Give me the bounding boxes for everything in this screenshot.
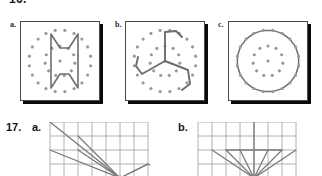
- outer-ring-dot: [236, 55, 239, 58]
- outer-ring-dot: [252, 87, 255, 90]
- grid-panel-17a: [48, 122, 150, 176]
- outer-ring-dot: [297, 64, 300, 67]
- outer-ring-dot: [159, 29, 162, 32]
- outer-ring-dot: [294, 45, 297, 48]
- inner-ring-dot: [172, 47, 175, 50]
- panel-a-drawing: [21, 22, 99, 100]
- panel-c-drawing: [229, 22, 307, 100]
- outer-ring-dot: [86, 73, 89, 76]
- outer-ring-dot: [177, 87, 180, 90]
- outer-ring-dot: [294, 73, 297, 76]
- center-dot-a: [58, 59, 61, 62]
- center-dot-c: [266, 59, 269, 62]
- inner-ring-dot: [155, 47, 158, 50]
- outer-ring-dot: [149, 87, 152, 90]
- outer-ring-dot: [89, 55, 92, 58]
- outer-ring-dot: [297, 55, 300, 58]
- inner-ring-dot: [168, 74, 171, 77]
- outer-ring-dot: [149, 32, 152, 35]
- outer-ring-dot: [288, 37, 291, 40]
- page-header-cut-off: 16.: [9, 0, 27, 5]
- outer-ring-dot: [288, 81, 291, 84]
- outer-ring-dot: [236, 64, 239, 67]
- outer-ring-dot: [31, 73, 34, 76]
- inner-ring-dot: [175, 69, 178, 72]
- inner-ring-dot: [178, 62, 181, 65]
- ray-segments-17b: [212, 122, 296, 176]
- inner-ring-dot: [72, 53, 75, 56]
- outer-ring-dot: [280, 87, 283, 90]
- exercise-17-number: 17.: [6, 121, 21, 133]
- inner-ring-dot: [54, 74, 57, 77]
- ray-segment: [240, 150, 254, 176]
- outer-ring-dot: [159, 90, 162, 93]
- outer-ring-dot: [168, 90, 171, 93]
- inner-ring-dot: [150, 53, 153, 56]
- outer-ring-dot: [28, 64, 31, 67]
- outer-ring-dot: [136, 45, 139, 48]
- inner-ring-dot: [253, 53, 256, 56]
- panel-c-label: c.: [218, 20, 224, 29]
- panel-b-label: b.: [115, 20, 121, 29]
- outer-ring-dot: [28, 55, 31, 58]
- inner-ring-dot: [271, 74, 274, 77]
- outer-ring-dot: [244, 81, 247, 84]
- outer-ring-dot: [63, 29, 66, 32]
- inner-ring-dot: [152, 69, 155, 72]
- outer-ring-dot: [141, 81, 144, 84]
- outer-ring-dot: [244, 37, 247, 40]
- pinwheel-arm: [165, 31, 182, 61]
- outer-ring-dot: [194, 64, 197, 67]
- outer-ring-dot: [54, 90, 57, 93]
- outer-ring-dot: [80, 81, 83, 84]
- outer-ring-dot: [239, 45, 242, 48]
- inner-ring-dot: [44, 62, 47, 65]
- outer-ring-dot: [185, 37, 188, 40]
- outer-ring-dot: [280, 32, 283, 35]
- exercise-17: 17. a. b.: [0, 118, 322, 176]
- inner-ring-dot: [262, 74, 265, 77]
- hourglass-figure-a: [51, 34, 78, 88]
- outer-ring-dot: [239, 73, 242, 76]
- outer-ring-dot: [191, 45, 194, 48]
- ray-segments-17a: [50, 122, 120, 176]
- outer-ring-dot: [72, 87, 75, 90]
- textbook-page-fragment: 16. a. b.: [0, 0, 322, 176]
- inner-ring-dot: [258, 47, 261, 50]
- quadrilateral-17a: [120, 164, 150, 176]
- inner-ring-dot: [47, 69, 50, 72]
- outer-ring-dot: [44, 87, 47, 90]
- outer-ring-dot: [54, 29, 57, 32]
- panel-a-label: a.: [10, 20, 16, 29]
- panel-c-frame: [228, 21, 308, 101]
- panel-a-frame: [20, 21, 100, 101]
- exercise-17-b-label: b.: [178, 121, 188, 133]
- outer-ring-dot: [262, 90, 265, 93]
- inner-ring-dot: [70, 69, 73, 72]
- outer-ring-dot: [252, 32, 255, 35]
- outer-ring-dot: [44, 32, 47, 35]
- grid-panel-17b-drawing: [196, 122, 298, 176]
- outer-ring-dot: [191, 73, 194, 76]
- outer-ring-dot: [89, 64, 92, 67]
- inner-ring-dot: [159, 74, 162, 77]
- inner-ring-dot: [177, 53, 180, 56]
- outer-ring-dot: [185, 81, 188, 84]
- grid-panel-17a-drawing: [48, 122, 150, 176]
- outer-ring-dot: [36, 81, 39, 84]
- outer-ring-dot: [262, 29, 265, 32]
- dot-pattern-panel-row: a. b.: [0, 14, 322, 110]
- exercise-17-a-label: a.: [32, 121, 41, 133]
- grid-panel-17b: [196, 122, 298, 176]
- outer-ring-dot: [80, 37, 83, 40]
- outer-ring-dot: [31, 45, 34, 48]
- outer-ring-dot: [194, 55, 197, 58]
- outer-ring-dot: [271, 29, 274, 32]
- pinwheel-arm: [136, 57, 165, 74]
- inner-ring-dot: [275, 47, 278, 50]
- grid-lines-17a: [50, 122, 148, 176]
- inner-ring-dot: [149, 62, 152, 65]
- inner-ring-dot: [266, 44, 269, 47]
- outer-ring-dot: [141, 37, 144, 40]
- inner-ring-dot: [252, 62, 255, 65]
